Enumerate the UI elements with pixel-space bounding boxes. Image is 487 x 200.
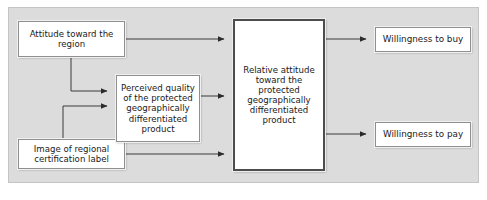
node-perceived-quality: Perceived quality of the protected geogr… (116, 75, 200, 142)
node-willingness-to-pay: Willingness to pay (375, 122, 471, 147)
node-label: Relative attitude toward the protected g… (240, 65, 317, 126)
node-relative-attitude: Relative attitude toward the protected g… (233, 19, 325, 171)
node-label: Attitude toward the region (27, 29, 117, 49)
edge-image-label-to-perceived-quality (63, 106, 107, 139)
node-attitude-toward-the-region: Attitude toward the region (18, 21, 125, 57)
edge-attitude-region-to-perceived-quality (71, 57, 107, 91)
node-label: Image of regional certification label (31, 144, 113, 164)
node-image-of-regional-certification-label: Image of regional certification label (18, 139, 125, 169)
node-willingness-to-buy: Willingness to buy (375, 27, 471, 52)
diagram-root: Attitude toward the region Image of regi… (0, 0, 487, 200)
node-label: Perceived quality of the protected geogr… (118, 83, 198, 134)
node-label: Willingness to buy (380, 34, 466, 44)
node-label: Willingness to pay (380, 129, 466, 139)
